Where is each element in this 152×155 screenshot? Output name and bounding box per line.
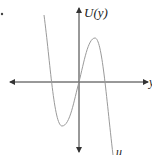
potential-plot: U(y) y u <box>0 0 152 155</box>
x-axis-label: y <box>148 75 152 89</box>
figure-marker-dot <box>1 13 3 15</box>
y-axis-label: U(y) <box>84 5 108 20</box>
curve-label: u <box>116 145 122 155</box>
